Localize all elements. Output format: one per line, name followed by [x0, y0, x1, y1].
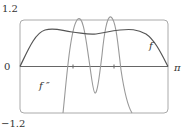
chart: 1.2 0 −1.2 π f f ″	[0, 0, 191, 133]
y-label-zero: 0	[4, 61, 10, 72]
fpp-label: f ″	[38, 80, 50, 91]
f-curve	[20, 29, 168, 67]
x-label-pi: π	[173, 62, 181, 73]
y-label-top: 1.2	[2, 3, 18, 14]
y-label-bottom: −1.2	[1, 118, 25, 129]
